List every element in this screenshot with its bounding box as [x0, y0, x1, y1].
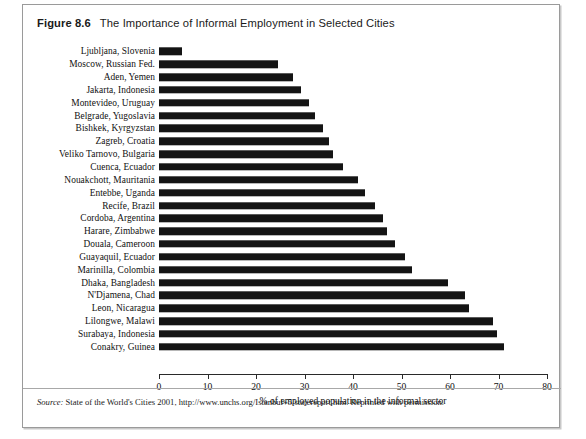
bar-row: Dhaka, Bangladesh: [23, 276, 561, 289]
bar: [159, 150, 333, 157]
bar-row: Belgrade, Yugoslavia: [23, 109, 561, 122]
bar-category-label: Dhaka, Bangladesh: [81, 277, 159, 287]
x-axis-tick: [499, 374, 500, 379]
bar-row: Douala, Cameroon: [23, 238, 561, 251]
bar-category-label: Entebbe, Uganda: [90, 188, 159, 198]
bar-category-label: Moscow, Russian Fed.: [69, 59, 159, 69]
x-axis-tick-label: 80: [542, 381, 552, 392]
figure-frame: Figure 8.6The Importance of Informal Emp…: [22, 4, 560, 428]
bar-row: Marinilla, Colombia: [23, 263, 561, 276]
bar: [159, 112, 315, 119]
source-label: Source:: [37, 397, 63, 407]
x-axis-tick: [159, 374, 160, 379]
bar-row: Moscow, Russian Fed.: [23, 58, 561, 71]
bar-row: Zagreb, Croatia: [23, 135, 561, 148]
source-citation: State of the World's Cities 2001, http:/…: [63, 397, 444, 407]
bar: [159, 228, 387, 235]
bar-row: Entebbe, Uganda: [23, 186, 561, 199]
bar-category-label: Cuenca, Ecuador: [90, 162, 159, 172]
x-axis-tick-label: 20: [251, 381, 261, 392]
bar-category-label: Belgrade, Yugoslavia: [74, 110, 159, 120]
bar-category-label: Zagreb, Croatia: [95, 136, 159, 146]
bar-rows-container: Ljubljana, SloveniaMoscow, Russian Fed.A…: [23, 45, 561, 353]
bar-category-label: Harare, Zimbabwe: [84, 226, 159, 236]
x-axis-tick: [208, 374, 209, 379]
figure-title: Figure 8.6The Importance of Informal Emp…: [37, 17, 395, 29]
bar-category-label: Ljubljana, Slovenia: [81, 46, 159, 56]
bar-row: Lilongwe, Malawi: [23, 315, 561, 328]
bar: [159, 189, 365, 196]
bar: [159, 266, 412, 273]
source-divider: [23, 388, 561, 389]
bar-row: Cuenca, Ecuador: [23, 161, 561, 174]
bar: [159, 240, 395, 247]
x-axis-tick-label: 30: [300, 381, 310, 392]
bar-row: Surabaya, Indonesia: [23, 328, 561, 341]
bar-row: Bishkek, Kyrgyzstan: [23, 122, 561, 135]
x-axis-tick: [353, 374, 354, 379]
bar-category-label: Douala, Cameroon: [83, 239, 159, 249]
bar: [159, 163, 343, 170]
bar-row: Leon, Nicaragua: [23, 302, 561, 315]
x-axis-tick-label: 50: [397, 381, 407, 392]
bar: [159, 343, 504, 350]
x-axis-tick: [402, 374, 403, 379]
bar-row: Guayaquil, Ecuador: [23, 251, 561, 264]
bar-category-label: Veliko Tarnovo, Bulgaria: [59, 149, 159, 159]
bar-category-label: Cordoba, Argentina: [80, 213, 159, 223]
bar-category-label: Guayaquil, Ecuador: [79, 252, 159, 262]
figure-number: Figure 8.6: [37, 17, 91, 29]
bar: [159, 305, 469, 312]
x-axis-tick: [305, 374, 306, 379]
x-axis-tick: [256, 374, 257, 379]
figure-title-text: The Importance of Informal Employment in…: [100, 17, 395, 29]
bar-category-label: Surabaya, Indonesia: [78, 329, 159, 339]
x-axis-tick-label: 70: [494, 381, 504, 392]
bar: [159, 61, 278, 68]
bar-row: N'Djamena, Chad: [23, 289, 561, 302]
bar-category-label: Lilongwe, Malawi: [85, 316, 159, 326]
x-axis-tick-label: 40: [348, 381, 358, 392]
x-axis-tick: [547, 374, 548, 379]
bar-row: Aden, Yemen: [23, 71, 561, 84]
bar: [159, 330, 497, 337]
bar: [159, 202, 375, 209]
x-axis-tick: [450, 374, 451, 379]
bar: [159, 48, 182, 55]
bar: [159, 215, 383, 222]
bar-category-label: Marinilla, Colombia: [77, 265, 159, 275]
bar: [159, 86, 301, 93]
bar-row: Veliko Tarnovo, Bulgaria: [23, 148, 561, 161]
bar: [159, 279, 448, 286]
x-axis-tick-label: 10: [203, 381, 213, 392]
x-axis-tick-label: 0: [157, 381, 162, 392]
bar-category-label: Aden, Yemen: [104, 72, 159, 82]
bar-chart-plot-area: Ljubljana, SloveniaMoscow, Russian Fed.A…: [23, 45, 561, 375]
bar-category-label: Bishkek, Kyrgyzstan: [76, 123, 159, 133]
bar: [159, 292, 465, 299]
bar: [159, 317, 493, 324]
bar: [159, 176, 358, 183]
bar: [159, 125, 323, 132]
bar-category-label: N'Djamena, Chad: [87, 290, 159, 300]
bar-category-label: Conakry, Guinea: [91, 342, 159, 352]
bar-row: Ljubljana, Slovenia: [23, 45, 561, 58]
bar-row: Nouakchott, Mauritania: [23, 173, 561, 186]
bar-row: Montevideo, Uruguay: [23, 96, 561, 109]
bar-category-label: Jakarta, Indonesia: [86, 85, 159, 95]
bar: [159, 99, 309, 106]
bar-row: Harare, Zimbabwe: [23, 225, 561, 238]
bar-row: Conakry, Guinea: [23, 340, 561, 353]
source-note: Source: State of the World's Cities 2001…: [37, 397, 444, 407]
bar: [159, 138, 329, 145]
bar-category-label: Nouakchott, Mauritania: [64, 175, 159, 185]
bar-row: Jakarta, Indonesia: [23, 84, 561, 97]
bar-category-label: Leon, Nicaragua: [92, 303, 159, 313]
bar-row: Cordoba, Argentina: [23, 212, 561, 225]
bar-row: Recife, Brazil: [23, 199, 561, 212]
x-axis-tick-label: 60: [445, 381, 455, 392]
bar: [159, 253, 405, 260]
bar-category-label: Recife, Brazil: [102, 200, 159, 210]
bar: [159, 73, 293, 80]
bar-category-label: Montevideo, Uruguay: [71, 98, 159, 108]
